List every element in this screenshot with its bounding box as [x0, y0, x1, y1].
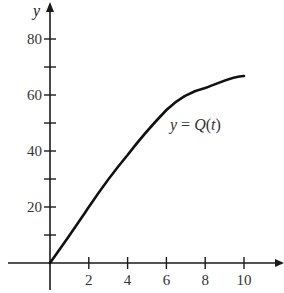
y-tick-labels: 20 40 60 80 — [27, 31, 42, 215]
y-axis-label: y — [31, 2, 41, 20]
x-tick-label: 4 — [124, 272, 132, 288]
y-tick-label: 60 — [27, 87, 42, 103]
y-tick-label: 40 — [27, 143, 42, 159]
curve-annotation: y = Q(t) — [168, 116, 221, 134]
curve-q-of-t — [50, 76, 244, 263]
y-tick-label: 80 — [27, 31, 42, 47]
y-tick-label: 20 — [27, 199, 42, 215]
x-tick-labels: 2 4 6 8 10 — [85, 272, 251, 288]
x-tick-label: 2 — [85, 272, 93, 288]
x-tick-label: 6 — [163, 272, 171, 288]
y-axis-arrow-icon — [46, 2, 54, 12]
x-tick-label: 8 — [201, 272, 209, 288]
x-axis-arrow-icon — [275, 259, 284, 267]
x-tick-label: 10 — [237, 272, 252, 288]
chart: y 2 4 6 8 10 20 40 60 80 y = Q(t) — [0, 0, 284, 293]
